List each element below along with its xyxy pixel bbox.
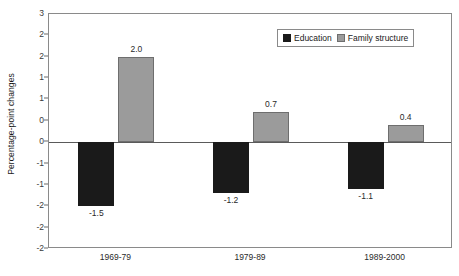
x-axis-category-label: 1989-2000 [364,252,405,262]
black-square-swatch [283,34,291,42]
y-axis-tick-labels: 3221100-1-1-2-2-2 [22,0,48,248]
bar-value-label: -1.1 [358,191,373,201]
bar-education [348,142,384,189]
y-axis-tick-label: -2 [36,200,44,210]
x-axis-category-label: 1979-89 [234,252,265,262]
bar-education [78,142,114,206]
bar-family-structure [253,112,289,142]
x-axis-category-labels: 1969-791979-891989-2000 [48,252,452,272]
bar-value-label: -1.2 [224,195,239,205]
bar-family-structure [118,57,154,142]
bar-education [213,142,249,193]
bar-group: -1.52.0 [49,14,184,247]
plot-area: -1.52.0-1.20.7-1.10.4 EducationFamily st… [48,13,452,248]
x-axis-category-label: 1969-79 [100,252,131,262]
y-axis-title: Percentage-point changes [0,0,22,248]
chart-figure: Percentage-point changes 3221100-1-1-2-2… [0,0,459,276]
legend-item: Family structure [337,33,408,43]
gray-square-swatch [337,34,345,42]
y-axis-tick-label: -1 [36,179,44,189]
legend-item-label: Education [294,33,332,43]
bar-group: -1.10.4 [318,14,453,247]
legend-item-label: Family structure [348,33,408,43]
y-axis-tick-label: -2 [36,243,44,253]
y-axis-tick-label: -2 [36,222,44,232]
y-axis-tick-label: 3 [39,8,44,18]
legend-item: Education [283,33,332,43]
chart-legend: EducationFamily structure [277,29,414,47]
bar-value-label: 2.0 [130,44,142,54]
y-axis-title-text: Percentage-point changes [6,73,16,175]
bar-value-label: 0.4 [400,112,412,122]
bar-value-label: 0.7 [265,99,277,109]
bar-family-structure [388,125,424,142]
bar-value-label: -1.5 [89,208,104,218]
y-axis-tick-label: -1 [36,158,44,168]
bar-group: -1.20.7 [184,14,319,247]
